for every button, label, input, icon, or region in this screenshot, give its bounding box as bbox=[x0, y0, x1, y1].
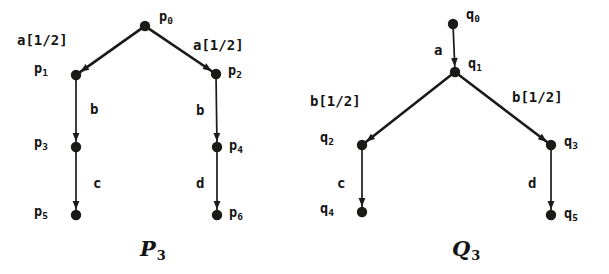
node-label-p3-base: p bbox=[34, 134, 42, 150]
caption-P3: P3 bbox=[140, 238, 165, 259]
node-label-p5-base: p bbox=[34, 203, 42, 219]
edges-layer bbox=[73, 29, 555, 211]
node-q2 bbox=[357, 140, 367, 150]
node-label-q1-subscript: 1 bbox=[476, 62, 482, 73]
edge-P3-p2-p4 bbox=[216, 79, 217, 143]
arrowhead-Q3-q2-q4 bbox=[359, 198, 366, 207]
node-label-q0-subscript: 0 bbox=[474, 13, 480, 24]
node-label-q5-base: q bbox=[564, 205, 572, 221]
probabilistic-transition-systems-figure: a[1/2]a[1/2]bbcdp0p1p2p3p4p5p6P3ab[1/2]b… bbox=[0, 0, 609, 274]
node-label-p6-subscript: 6 bbox=[237, 211, 243, 222]
node-label-p5-subscript: 5 bbox=[42, 210, 48, 221]
node-p3 bbox=[71, 142, 81, 152]
arrowhead-P3-p2-p4 bbox=[213, 133, 220, 142]
edge-P3-p0-p1 bbox=[80, 29, 141, 72]
arrowhead-P3-p3-p5 bbox=[73, 201, 80, 210]
edge-label-P3-p3-p5: c bbox=[93, 176, 101, 190]
edge-label-Q3-q3-q5: d bbox=[528, 176, 536, 190]
nodes-layer bbox=[71, 19, 556, 220]
node-label-q2: q2 bbox=[320, 131, 334, 145]
node-label-p3-subscript: 3 bbox=[42, 141, 48, 152]
node-q3 bbox=[546, 140, 556, 150]
node-p6 bbox=[212, 210, 222, 220]
node-label-p4: p4 bbox=[229, 139, 243, 153]
edge-label-P3-p1-p3: b bbox=[90, 102, 98, 116]
node-q5 bbox=[546, 210, 556, 220]
node-label-q4: q4 bbox=[320, 202, 334, 216]
node-label-p1: p1 bbox=[34, 62, 48, 76]
edge-label-Q3-q1-q3: b[1/2] bbox=[512, 90, 563, 104]
node-p0 bbox=[140, 21, 150, 31]
caption-Q3: Q3 bbox=[452, 238, 479, 259]
node-label-p4-base: p bbox=[229, 137, 237, 153]
node-label-q5-subscript: 5 bbox=[572, 212, 578, 223]
node-label-p2-subscript: 2 bbox=[236, 69, 242, 80]
arrowhead-Q3-q0-q1 bbox=[451, 58, 458, 67]
node-label-p1-base: p bbox=[34, 60, 42, 76]
node-label-q4-subscript: 4 bbox=[328, 207, 334, 218]
caption-P3-base: P bbox=[140, 236, 156, 261]
node-label-q1: q1 bbox=[468, 57, 482, 71]
node-p4 bbox=[212, 142, 222, 152]
node-label-q2-base: q bbox=[320, 129, 328, 145]
node-label-p3: p3 bbox=[34, 136, 48, 150]
node-label-p5: p5 bbox=[34, 205, 48, 219]
caption-Q3-subscript: 3 bbox=[471, 248, 480, 263]
node-label-p6-base: p bbox=[229, 204, 237, 220]
node-label-p0: p0 bbox=[159, 10, 173, 24]
node-label-q0-base: q bbox=[466, 6, 474, 22]
edge-Q3-q1-q3 bbox=[459, 75, 547, 142]
node-p1 bbox=[71, 70, 81, 80]
node-label-p4-subscript: 4 bbox=[237, 144, 243, 155]
node-label-q1-base: q bbox=[468, 55, 476, 71]
arrowhead-Q3-q3-q5 bbox=[548, 201, 555, 210]
node-label-q3-subscript: 3 bbox=[572, 140, 578, 151]
edge-label-Q3-q2-q4: c bbox=[337, 176, 345, 190]
node-label-p2-base: p bbox=[228, 62, 236, 78]
diagram-canvas bbox=[0, 0, 609, 274]
node-q0 bbox=[448, 19, 458, 29]
node-label-q3-base: q bbox=[564, 133, 572, 149]
edge-Q3-q1-q2 bbox=[366, 75, 452, 142]
caption-Q3-base: Q bbox=[452, 236, 470, 261]
arrowhead-P3-p1-p3 bbox=[73, 133, 80, 142]
node-label-q3: q3 bbox=[564, 135, 578, 149]
node-q4 bbox=[357, 207, 367, 217]
node-label-p0-subscript: 0 bbox=[167, 15, 173, 26]
node-label-q4-base: q bbox=[320, 200, 328, 216]
node-q1 bbox=[450, 67, 460, 77]
node-label-q0: q0 bbox=[466, 8, 480, 22]
node-label-p1-subscript: 1 bbox=[42, 67, 48, 78]
node-label-q2-subscript: 2 bbox=[328, 136, 334, 147]
caption-P3-subscript: 3 bbox=[157, 248, 166, 263]
edge-label-Q3-q1-q2: b[1/2] bbox=[310, 94, 361, 108]
node-label-q5: q5 bbox=[564, 207, 578, 221]
arrowhead-P3-p4-p6 bbox=[214, 201, 221, 210]
edge-label-Q3-q0-q1: a bbox=[434, 43, 442, 57]
node-label-p6: p6 bbox=[229, 206, 243, 220]
edge-label-P3-p0-p2: a[1/2] bbox=[193, 38, 244, 52]
edge-label-P3-p2-p4: b bbox=[196, 103, 204, 117]
node-p2 bbox=[211, 69, 221, 79]
node-label-p0-base: p bbox=[159, 8, 167, 24]
node-p5 bbox=[71, 210, 81, 220]
node-label-p2: p2 bbox=[228, 64, 242, 78]
edge-label-P3-p4-p6: d bbox=[196, 176, 204, 190]
edge-label-P3-p0-p1: a[1/2] bbox=[17, 33, 68, 47]
